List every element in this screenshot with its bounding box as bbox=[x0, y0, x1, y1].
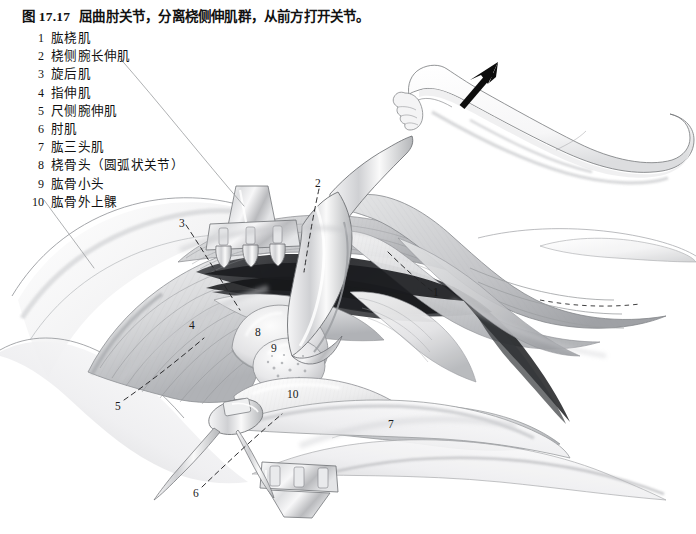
legend-item-number: 5 bbox=[22, 102, 44, 120]
leader-line-4 bbox=[540, 300, 640, 306]
legend-item-label: 桡骨头（圆弧状关节） bbox=[51, 156, 184, 174]
legend-item-number: 2 bbox=[22, 47, 44, 65]
callout-9: 9 bbox=[271, 343, 277, 355]
legend-item-label: 桡侧腕长伸肌 bbox=[51, 47, 131, 65]
legend-item-2: 2 桡侧腕长伸肌 bbox=[22, 47, 422, 65]
legend-list: 1 肱桡肌 2 桡侧腕长伸肌 3 旋后肌 4 指伸肌 5 尺侧腕伸肌 6 肘肌 … bbox=[22, 29, 422, 211]
legend-item-4: 4 指伸肌 bbox=[22, 84, 422, 102]
legend-item-number: 8 bbox=[22, 156, 44, 174]
legend-item-number: 3 bbox=[22, 65, 44, 83]
legend-item-3: 3 旋后肌 bbox=[22, 65, 422, 83]
legend-item-label: 肱桡肌 bbox=[51, 29, 91, 47]
legend-item-number: 4 bbox=[22, 84, 44, 102]
legend-item-6: 6 肘肌 bbox=[22, 120, 422, 138]
retractor-bottom-handle bbox=[268, 490, 330, 518]
legend-item-9: 9 肱骨小头 bbox=[22, 175, 422, 193]
caption-block: 图 17.17屈曲肘关节，分离桡侧伸肌群，从前方打开关节。 1 肱桡肌 2 桡侧… bbox=[22, 8, 422, 211]
callout-8: 8 bbox=[255, 327, 261, 339]
legend-item-7: 7 肱三头肌 bbox=[22, 138, 422, 156]
inset-arm-diagram bbox=[393, 62, 694, 183]
callout-1: 1 bbox=[433, 287, 439, 299]
callout-6: 6 bbox=[193, 488, 199, 500]
legend-item-label: 肱骨外上髁 bbox=[51, 193, 118, 211]
legend-item-8: 8 桡骨头（圆弧状关节） bbox=[22, 156, 422, 174]
legend-item-label: 尺侧腕伸肌 bbox=[51, 102, 118, 120]
legend-item-10: 10 肱骨外上髁 bbox=[22, 193, 422, 211]
figure-number: 图 17.17 bbox=[22, 9, 70, 24]
legend-item-number: 6 bbox=[22, 120, 44, 138]
legend-item-label: 肱骨小头 bbox=[51, 175, 104, 193]
legend-item-label: 指伸肌 bbox=[51, 84, 91, 102]
figure-title-text: 屈曲肘关节，分离桡侧伸肌群，从前方打开关节。 bbox=[79, 9, 369, 24]
inset-arm-outline bbox=[408, 65, 694, 172]
legend-item-number: 10 bbox=[22, 193, 44, 211]
figure-title: 图 17.17屈曲肘关节，分离桡侧伸肌群，从前方打开关节。 bbox=[22, 8, 422, 25]
legend-item-number: 7 bbox=[22, 138, 44, 156]
legend-item-number: 1 bbox=[22, 29, 44, 47]
callout-3: 3 bbox=[179, 218, 185, 230]
legend-item-label: 肘肌 bbox=[51, 120, 78, 138]
retractor-bottom-prong-slots bbox=[270, 466, 328, 488]
legend-item-label: 旋后肌 bbox=[51, 65, 91, 83]
legend-item-1: 1 肱桡肌 bbox=[22, 29, 422, 47]
callout-5: 5 bbox=[115, 401, 121, 413]
leader-lines-secondary bbox=[540, 300, 640, 306]
callout-7: 7 bbox=[388, 419, 394, 431]
retractor-bottom bbox=[260, 462, 338, 518]
legend-item-5: 5 尺侧腕伸肌 bbox=[22, 102, 422, 120]
skin-flap-right-upper bbox=[540, 238, 696, 262]
callout-4: 4 bbox=[189, 320, 195, 332]
legend-item-number: 9 bbox=[22, 175, 44, 193]
callout-10: 10 bbox=[287, 389, 299, 401]
legend-item-label: 肱三头肌 bbox=[51, 138, 104, 156]
